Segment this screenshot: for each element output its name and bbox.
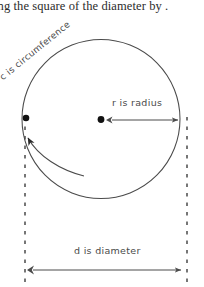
diameter-arrow-left-head <box>27 266 34 275</box>
radius-label: r is radius <box>112 97 162 108</box>
diameter-label: d is diameter <box>74 245 141 256</box>
circle-diagram-page: ing the square of the diameter by . <box>0 0 204 287</box>
circumference-leader-arrow <box>28 138 84 176</box>
circumference-point-dot <box>23 115 30 122</box>
center-dot <box>98 116 105 123</box>
circle-diagram-graphic <box>0 0 204 287</box>
radius-arrow-left-head <box>106 117 113 124</box>
